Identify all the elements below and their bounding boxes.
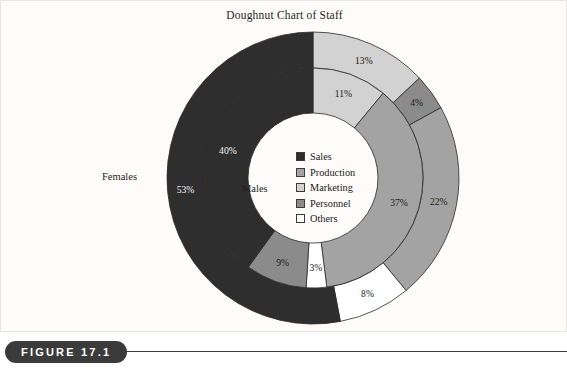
legend-swatch-sales xyxy=(296,152,305,161)
slice-label-males-production: 37% xyxy=(390,197,408,208)
legend-swatch-others xyxy=(296,214,305,223)
legend-swatch-production xyxy=(296,168,305,177)
legend-label-others: Others xyxy=(310,213,337,224)
figure-rule xyxy=(100,351,567,352)
slice-label-females-sales: 53% xyxy=(177,184,195,195)
legend-item-personnel[interactable]: Personnel xyxy=(296,196,388,211)
legend-label-sales: Sales xyxy=(310,151,332,162)
figure-panel: Doughnut Chart of Staff 13%4%22%8%53% 11… xyxy=(0,0,567,332)
slice-label-females-others: 8% xyxy=(361,288,374,299)
legend-label-production: Production xyxy=(310,167,355,178)
slice-label-females-marketing: 13% xyxy=(355,55,373,66)
series-label-males: Males xyxy=(242,183,268,194)
doughnut-chart: 13%4%22%8%53% 11%37%3%9%40% Females Male… xyxy=(1,1,567,333)
legend-item-marketing[interactable]: Marketing xyxy=(296,180,388,195)
legend-swatch-marketing xyxy=(296,183,305,192)
slice-label-females-production: 22% xyxy=(430,196,448,207)
legend-label-personnel: Personnel xyxy=(310,198,351,209)
legend-label-marketing: Marketing xyxy=(310,182,353,193)
legend-swatch-personnel xyxy=(296,199,305,208)
slice-label-males-personnel: 9% xyxy=(276,257,289,268)
slice-label-males-others: 3% xyxy=(309,262,322,273)
slice-label-males-sales: 40% xyxy=(219,145,237,156)
slice-label-males-marketing: 11% xyxy=(335,88,352,99)
series-label-females: Females xyxy=(102,171,137,182)
figure-number-badge: FIGURE 17.1 xyxy=(5,341,127,363)
doughnut-chart-svg: 13%4%22%8%53% 11%37%3%9%40% xyxy=(1,1,567,333)
legend-item-production[interactable]: Production xyxy=(296,165,388,180)
chart-legend: SalesProductionMarketingPersonnelOthers xyxy=(296,149,388,227)
slice-label-females-personnel: 4% xyxy=(410,97,423,108)
legend-item-others[interactable]: Others xyxy=(296,211,388,226)
legend-item-sales[interactable]: Sales xyxy=(296,149,388,164)
figure-caption-bar: FIGURE 17.1 xyxy=(0,332,567,368)
